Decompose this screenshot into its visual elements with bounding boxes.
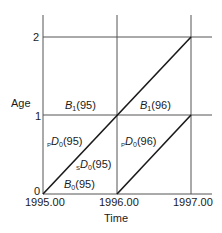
x-tick-1996: 1996.00 (99, 196, 139, 208)
y-tick-1: 1 (35, 110, 41, 122)
label-sd0-95: SD0(95) (76, 158, 111, 174)
x-tick-1995: 1995.00 (25, 196, 65, 208)
lifeline-1996-cohort (117, 115, 191, 194)
y-axis-title: Age (11, 97, 31, 109)
x-tick-1997: 1997.00 (173, 196, 213, 208)
x-axis-title: Time (104, 212, 128, 224)
label-b0-95: B0(95) (64, 178, 95, 194)
label-pd0-95: PD0(95) (47, 135, 82, 151)
label-b1-96: B1(96) (140, 99, 171, 115)
label-b1-95: B1(95) (65, 99, 96, 115)
label-pd0-96: PD0(96) (121, 135, 156, 151)
y-tick-2: 2 (33, 31, 39, 43)
